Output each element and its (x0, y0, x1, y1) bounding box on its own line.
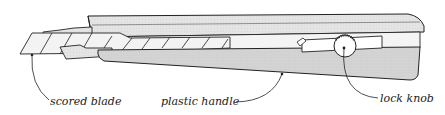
plastic-handle-body (98, 47, 420, 80)
label-scored-blade: scored blade (50, 96, 121, 107)
label-plastic-handle: plastic handle (161, 96, 239, 107)
label-lock-knob: lock knob (380, 93, 434, 104)
lock-knob (334, 35, 356, 57)
